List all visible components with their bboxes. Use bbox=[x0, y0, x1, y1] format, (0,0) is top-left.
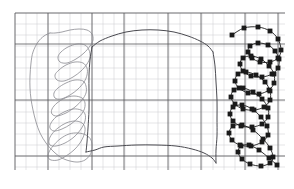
data-point-marker bbox=[263, 80, 268, 85]
data-point-marker bbox=[246, 91, 251, 96]
data-point-marker bbox=[232, 88, 237, 93]
data-point-marker bbox=[265, 124, 270, 129]
data-point-marker bbox=[273, 49, 278, 54]
data-point-marker bbox=[229, 95, 234, 100]
data-point-marker bbox=[260, 122, 265, 127]
data-point-marker bbox=[240, 103, 245, 108]
data-point-marker bbox=[240, 123, 245, 128]
plot-canvas bbox=[0, 0, 294, 189]
data-point-marker bbox=[249, 54, 254, 59]
data-point-marker bbox=[256, 41, 261, 46]
data-point-marker bbox=[260, 75, 265, 80]
data-point-marker bbox=[268, 89, 273, 94]
data-point-marker bbox=[254, 73, 259, 78]
data-point-marker bbox=[233, 79, 238, 84]
data-point-marker bbox=[267, 156, 272, 161]
data-point-marker bbox=[268, 29, 273, 34]
data-point-marker bbox=[259, 115, 264, 120]
plot-figure bbox=[0, 0, 294, 189]
data-point-marker bbox=[230, 138, 235, 143]
data-point-marker bbox=[268, 161, 273, 166]
data-point-marker bbox=[231, 119, 236, 124]
data-point-marker bbox=[257, 148, 262, 153]
data-point-marker bbox=[241, 86, 246, 91]
data-point-marker bbox=[228, 112, 233, 117]
data-point-marker bbox=[241, 56, 246, 61]
data-point-marker bbox=[259, 164, 264, 169]
data-point-marker bbox=[240, 157, 245, 162]
data-point-marker bbox=[260, 97, 265, 102]
data-point-marker bbox=[236, 150, 241, 155]
data-point-marker bbox=[251, 90, 256, 95]
data-point-marker bbox=[266, 43, 271, 48]
data-point-marker bbox=[248, 162, 253, 167]
data-point-marker bbox=[266, 115, 271, 120]
data-point-marker bbox=[249, 74, 254, 79]
data-point-marker bbox=[266, 133, 271, 138]
data-point-marker bbox=[277, 57, 282, 62]
data-point-marker bbox=[242, 26, 247, 31]
data-point-marker bbox=[239, 144, 244, 149]
data-point-marker bbox=[227, 131, 232, 136]
data-point-marker bbox=[250, 107, 255, 112]
data-point-marker bbox=[238, 62, 243, 67]
data-point-marker bbox=[231, 105, 236, 110]
data-point-marker bbox=[266, 106, 271, 111]
data-point-marker bbox=[275, 163, 280, 168]
data-point-marker bbox=[259, 57, 264, 62]
data-point-marker bbox=[261, 137, 266, 142]
data-point-marker bbox=[272, 81, 277, 86]
data-point-marker bbox=[248, 44, 253, 49]
data-point-marker bbox=[236, 72, 241, 77]
data-point-marker bbox=[268, 146, 273, 151]
data-point-marker bbox=[276, 37, 281, 42]
data-point-marker bbox=[256, 25, 261, 30]
data-point-marker bbox=[257, 92, 262, 97]
data-point-marker bbox=[276, 66, 281, 71]
data-point-marker bbox=[279, 48, 284, 53]
data-point-marker bbox=[251, 128, 256, 133]
data-point-marker bbox=[247, 143, 252, 148]
data-point-marker bbox=[267, 64, 272, 69]
data-point-marker bbox=[230, 33, 235, 38]
data-point-marker bbox=[272, 72, 277, 77]
data-point-marker bbox=[268, 98, 273, 103]
data-point-marker bbox=[244, 70, 249, 75]
data-point-marker bbox=[231, 124, 236, 129]
